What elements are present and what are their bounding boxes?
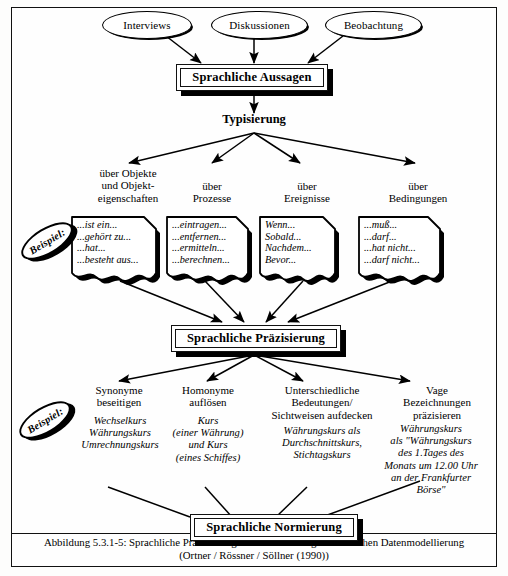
source-ellipse-interviews[interactable]: Interviews xyxy=(102,11,192,39)
line-norm-2 xyxy=(205,487,232,517)
note-line: ...hat nicht... xyxy=(364,242,416,253)
category-line: Ereignisse xyxy=(284,192,330,204)
category-line: Homonyme xyxy=(182,384,234,396)
example-line: Umrechnungskurs xyxy=(81,439,158,450)
process-box-sprachliche-normierung[interactable]: Sprachliche Normierung xyxy=(190,514,358,541)
example-line: als "Währungskurs xyxy=(390,435,471,446)
typisierung-category-4: über Bedingungen xyxy=(360,180,476,205)
example-line: Stichtagskurs xyxy=(293,449,350,460)
caption-line-2: (Ortner / Rössner / Söllner (1990)) xyxy=(13,549,495,562)
note-text-block: ...ist ein... ...gehört zu... ...hat... … xyxy=(77,219,139,265)
note-line: ...ermitteln... xyxy=(172,242,225,253)
category-line: beseitigen xyxy=(97,396,142,408)
note-line: ...muß... xyxy=(364,219,397,230)
category-line: über xyxy=(297,180,317,192)
note-line: ...gehört zu... xyxy=(77,231,131,242)
note-line: Nachdem... xyxy=(265,242,312,253)
category-line: über Objekte xyxy=(99,167,156,179)
category-line: und Objekt- xyxy=(102,179,155,191)
arrow-interviews xyxy=(166,36,201,63)
example-line: des 1.Tages des xyxy=(398,447,464,458)
source-label: Beobachtung xyxy=(344,19,403,31)
praezisierung-example-2: Kurs (einer Währung) und Kurs (eines Sch… xyxy=(152,415,264,464)
note-line: ...darf... xyxy=(364,231,397,242)
category-line: Prozesse xyxy=(193,192,232,204)
category-line: Unterschiedliche xyxy=(285,384,360,396)
note-line: Wenn... xyxy=(265,219,295,230)
typisierung-category-2: über Prozesse xyxy=(162,180,262,205)
category-line: über xyxy=(202,180,222,192)
line-norm-3 xyxy=(276,487,307,517)
category-line: Sichtweisen aufdecken xyxy=(271,409,372,421)
box-inner-border: Sprachliche Normierung xyxy=(194,518,354,537)
note-line: ...ist ein... xyxy=(77,219,117,230)
figure-container: Interviews Diskussionen Beobachtung Spra… xyxy=(0,0,508,576)
example-note-bedingungen: ...muß... ...darf... ...hat nicht... ...… xyxy=(355,213,443,281)
note-line: Sobald... xyxy=(265,231,301,242)
note-text-block: Wenn... Sobald... Nachdem... Bevor... xyxy=(265,219,312,265)
category-line: Synonyme xyxy=(95,384,142,396)
note-line: ...berechnen... xyxy=(172,254,230,265)
note-line: ...entfernen... xyxy=(172,231,226,242)
arrow-typ-1 xyxy=(129,133,254,163)
process-box-sprachliche-praezisierung[interactable]: Sprachliche Präzisierung xyxy=(171,325,341,352)
stage-label-typisierung: Typisierung xyxy=(204,113,304,125)
category-line: präzisieren xyxy=(413,409,461,421)
note-line: Bevor... xyxy=(265,254,296,265)
example-line: Monats um 12.00 Uhr xyxy=(384,460,478,471)
process-box-label: Sprachliche Aussagen xyxy=(192,70,311,85)
example-line: an der Frankfurter xyxy=(391,472,471,483)
stage-label-text: Typisierung xyxy=(222,112,286,126)
category-line: über xyxy=(408,180,428,192)
process-box-label: Sprachliche Normierung xyxy=(206,520,342,535)
category-line: Bedeutungen/ xyxy=(291,396,352,408)
note-line: ...besteht aus... xyxy=(77,254,139,265)
example-line: Durchschnittskurs, xyxy=(282,437,362,448)
source-ellipse-diskussionen[interactable]: Diskussionen xyxy=(211,11,308,39)
box-inner-border: Sprachliche Präzisierung xyxy=(175,329,337,348)
example-note-prozesse: ...eintragen... ...entfernen... ...ermit… xyxy=(163,213,251,281)
note-text-block: ...eintragen... ...entfernen... ...ermit… xyxy=(172,219,230,265)
arrow-prae-1 xyxy=(119,355,254,381)
arrow-beobachtung xyxy=(308,36,343,63)
praezisierung-category-2: Homonyme auflösen xyxy=(155,384,261,409)
example-line: (eines Schiffes) xyxy=(176,452,240,463)
category-line: Bedingungen xyxy=(389,192,448,204)
note-line: ...darf nicht... xyxy=(364,254,420,265)
example-line: Währungskurs als xyxy=(284,425,361,436)
line-norm-1 xyxy=(108,487,190,517)
typisierung-category-3: über Ereignisse xyxy=(254,180,360,205)
category-line: auflösen xyxy=(189,396,226,408)
example-line: (einer Währung) xyxy=(173,427,244,438)
example-line: Wechselkurs xyxy=(94,415,147,426)
example-note-objekte: ...ist ein... ...gehört zu... ...hat... … xyxy=(68,213,160,281)
category-line: Vage xyxy=(426,384,448,396)
note-line: ...hat... xyxy=(77,242,106,253)
process-box-sprachliche-aussagen[interactable]: Sprachliche Aussagen xyxy=(176,64,328,91)
example-line: und Kurs xyxy=(188,439,227,450)
category-line: Bezeichnungen xyxy=(403,396,471,408)
process-box-label: Sprachliche Präzisierung xyxy=(187,331,325,346)
category-line: eigenschaften xyxy=(98,192,158,204)
box-inner-border: Sprachliche Aussagen xyxy=(180,68,324,87)
praezisierung-category-3: Unterschiedliche Bedeutungen/ Sichtweise… xyxy=(252,384,392,421)
example-note-ereignisse: Wenn... Sobald... Nachdem... Bevor... xyxy=(256,213,336,281)
example-line: Währungskurs xyxy=(89,427,151,438)
praezisierung-example-4: Währungskurs als "Währungskurs des 1.Tag… xyxy=(368,423,494,496)
source-ellipse-beobachtung[interactable]: Beobachtung xyxy=(325,11,422,39)
example-line: Kurs xyxy=(198,415,219,426)
source-label: Diskussionen xyxy=(229,19,289,31)
note-text-block: ...muß... ...darf... ...hat nicht... ...… xyxy=(364,219,420,265)
note-line: ...eintragen... xyxy=(172,219,227,230)
source-label: Interviews xyxy=(123,19,170,31)
praezisierung-category-4: Vage Bezeichnungen präzisieren xyxy=(382,384,492,421)
example-line: Währungskurs xyxy=(400,423,462,434)
praezisierung-example-3: Währungskurs als Durchschnittskurs, Stic… xyxy=(258,425,386,462)
example-line: Börse" xyxy=(416,484,445,495)
